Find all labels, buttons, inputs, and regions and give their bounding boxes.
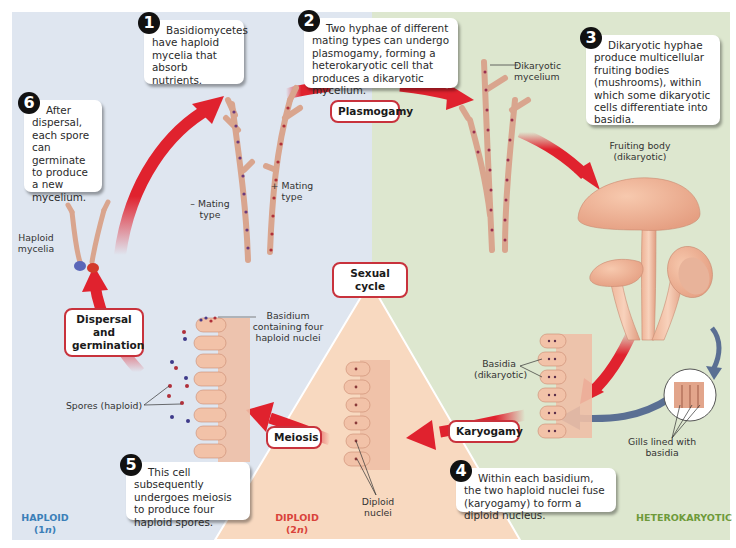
fruiting-body-line1: Fruiting body	[600, 140, 680, 151]
fruiting-body-line2: (dikaryotic)	[600, 151, 680, 162]
step-6-text: After dispersal, each spore can germinat…	[32, 104, 96, 203]
minus-mating-type-label: – Mating type	[180, 198, 240, 220]
step-3-callout: 3 Dikaryotic hyphae produce multicellula…	[586, 35, 720, 125]
dispersal-label-line2: germination	[72, 339, 136, 352]
diploid-ploidy: (2n)	[272, 524, 322, 536]
basidiomycete-life-cycle-diagram: 1 Basidiomycetes have haploid mycelia th…	[0, 0, 736, 548]
step-2-number-badge: 2	[298, 10, 320, 32]
gills-line2: basidia	[622, 447, 702, 458]
haploid-phase-name: HAPLOID	[20, 512, 70, 524]
karyogamy-label: Karyogamy	[448, 420, 520, 443]
step-3-text: Dikaryotic hyphae produce multicellular …	[594, 39, 714, 126]
step-4-number-badge: 4	[450, 460, 472, 482]
haploid-mycelia-line2: mycelia	[14, 243, 58, 254]
meiosis-label: Meiosis	[266, 426, 322, 449]
minus-mating-line2: type	[180, 209, 240, 220]
step-6-callout: 6 After dispersal, each spore can germin…	[24, 100, 102, 192]
basidia-line1: Basidia	[474, 358, 524, 369]
dispersal-germination-label: Dispersal and germination	[64, 308, 144, 357]
step-5-text: This cell subsequently undergoes meiosis…	[134, 466, 244, 528]
plasmogamy-label: Plasmogamy	[330, 100, 400, 123]
gills-lined-label: Gills lined with basidia	[622, 436, 702, 458]
step-2-text: Two hyphae of different mating types can…	[312, 22, 452, 96]
basidia-line2: (dikaryotic)	[474, 369, 524, 380]
gills-line1: Gills lined with	[622, 436, 702, 447]
sexual-cycle-label: Sexual cycle	[332, 262, 408, 298]
basidium-line3: haploid nuclei	[250, 332, 326, 343]
dikaryotic-mycelium-label: Dikaryotic mycelium	[514, 60, 570, 82]
basidia-dikaryotic-label: Basidia (dikaryotic)	[474, 358, 524, 380]
diploid-nuclei-line2: nuclei	[356, 507, 400, 518]
haploid-ploidy: (1n)	[20, 524, 70, 536]
step-3-number-badge: 3	[580, 27, 602, 49]
step-6-number-badge: 6	[18, 92, 40, 114]
haploid-mycelia-line1: Haploid	[14, 232, 58, 243]
dikaryotic-mycelium-line1: Dikaryotic	[514, 60, 570, 71]
heterokaryotic-phase-label: HETEROKARYOTIC	[636, 512, 726, 524]
haploid-ploidy-prefix: (1	[34, 524, 45, 535]
haploid-phase-label: HAPLOID (1n)	[20, 512, 70, 536]
step-5-callout: 5 This cell subsequently undergoes meios…	[126, 462, 250, 520]
diploid-phase-label: DIPLOID (2n)	[272, 512, 322, 536]
dispersal-label-line1: Dispersal and	[72, 313, 136, 339]
step-4-callout: 4 Within each basidium, the two haploid …	[456, 468, 616, 512]
step-1-number-badge: 1	[138, 12, 160, 34]
diploid-phase-name: DIPLOID	[272, 512, 322, 524]
minus-mating-line1: – Mating	[180, 198, 240, 209]
haploid-ploidy-n: n	[45, 524, 52, 535]
step-1-callout: 1 Basidiomycetes have haploid mycelia th…	[144, 20, 244, 84]
diploid-ploidy-n: n	[297, 524, 304, 535]
step-4-text: Within each basidium, the two haploid nu…	[464, 472, 610, 522]
step-1-text: Basidiomycetes have haploid mycelia that…	[152, 24, 238, 86]
haploid-mycelia-label: Haploid mycelia	[14, 232, 58, 254]
fruiting-body-label: Fruiting body (dikaryotic)	[600, 140, 680, 162]
basidium-line1: Basidium	[250, 310, 326, 321]
step-2-callout: 2 Two hyphae of different mating types c…	[304, 18, 458, 88]
plus-mating-line2: type	[264, 191, 320, 202]
diploid-nuclei-line1: Diploid	[356, 496, 400, 507]
diploid-nuclei-label: Diploid nuclei	[356, 496, 400, 518]
spores-haploid-label: Spores (haploid)	[64, 400, 144, 411]
haploid-ploidy-suffix: )	[52, 524, 56, 535]
basidium-four-nuclei-label: Basidium containing four haploid nuclei	[250, 310, 326, 343]
diploid-ploidy-suffix: )	[304, 524, 308, 535]
basidium-line2: containing four	[250, 321, 326, 332]
step-5-number-badge: 5	[120, 454, 142, 476]
diploid-ploidy-prefix: (2	[286, 524, 297, 535]
plus-mating-line1: + Mating	[264, 180, 320, 191]
dikaryotic-mycelium-line2: mycelium	[514, 71, 570, 82]
plus-mating-type-label: + Mating type	[264, 180, 320, 202]
